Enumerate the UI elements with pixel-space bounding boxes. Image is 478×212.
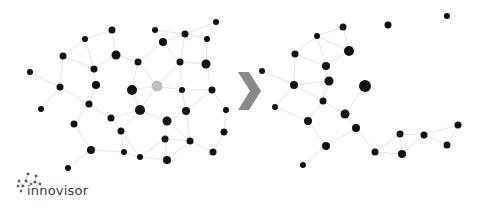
network-node (304, 117, 312, 125)
network-node (322, 142, 330, 150)
network-node (187, 138, 194, 145)
network-node (163, 117, 172, 126)
network-node (221, 129, 228, 136)
network-node (60, 53, 67, 60)
network-comparison-diagram: innovisor (0, 0, 478, 212)
network-node (71, 121, 78, 128)
network-node (340, 24, 347, 31)
network-node (259, 68, 265, 74)
network-node (314, 33, 320, 39)
chevron-right-icon (238, 72, 261, 110)
network-node (162, 136, 169, 143)
network-node (341, 110, 350, 119)
network-node (320, 98, 327, 105)
network-node (112, 51, 121, 60)
network-node (421, 132, 428, 139)
network-node (137, 154, 143, 160)
network-node (290, 81, 298, 89)
network-node (57, 84, 64, 91)
network-node (455, 122, 462, 129)
network-node (300, 162, 306, 168)
network-node (372, 149, 379, 156)
network-node (352, 124, 360, 132)
network-node (118, 128, 125, 135)
network-node (87, 146, 95, 154)
network-node (127, 85, 137, 95)
network-node (92, 81, 100, 89)
network-node (182, 107, 190, 115)
network-node (179, 87, 185, 93)
network-node (213, 19, 219, 25)
network-node (398, 150, 406, 158)
network-node (397, 131, 404, 138)
network-node (91, 66, 98, 73)
network-node (135, 59, 142, 66)
network-node (152, 81, 163, 92)
network-node (163, 156, 171, 164)
network-node (202, 60, 211, 69)
network-node (272, 104, 278, 110)
network-node (109, 27, 116, 34)
network-before-nodes (27, 19, 229, 171)
brand-name: innovisor (27, 183, 88, 198)
network-node (27, 69, 33, 75)
network-node (177, 59, 184, 66)
network-node (444, 13, 450, 19)
network-node (152, 27, 158, 33)
network-node (82, 36, 88, 42)
network-node (325, 77, 334, 86)
network-node (444, 142, 451, 149)
network-node (86, 101, 93, 108)
network-node (204, 36, 210, 42)
network-edges (30, 22, 458, 168)
network-node (38, 106, 44, 112)
network-node (108, 115, 115, 122)
network-node (135, 105, 145, 115)
network-node (292, 51, 299, 58)
network-node (385, 22, 392, 29)
network-node (322, 62, 330, 70)
network-node (223, 107, 229, 113)
network-node (344, 46, 354, 56)
network-node (159, 38, 167, 46)
network-node (210, 149, 217, 156)
network-node (121, 149, 127, 155)
network-node (209, 87, 216, 94)
network-node (359, 80, 371, 92)
network-node (182, 31, 189, 38)
